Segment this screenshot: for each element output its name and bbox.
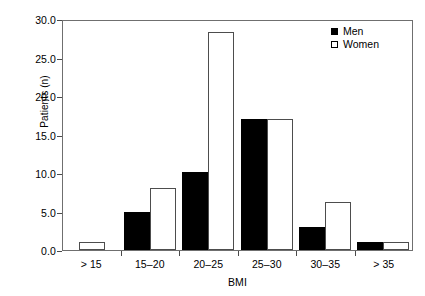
bar-group <box>238 21 296 250</box>
bar-pair <box>238 21 296 250</box>
x-tick-label: 30–35 <box>296 258 355 270</box>
legend-item: Men <box>331 25 379 38</box>
bar-men <box>182 172 208 250</box>
legend-swatch-icon <box>331 41 338 48</box>
y-tick-label: 10.0 <box>4 168 56 180</box>
bar-group <box>121 21 179 250</box>
x-tick-label: 20–25 <box>179 258 238 270</box>
bar-women <box>79 242 105 250</box>
legend-label: Men <box>343 25 363 38</box>
x-axis-labels: > 1515–2020–2525–3030–35> 35 <box>62 258 413 270</box>
legend-swatch-icon <box>331 28 338 35</box>
y-tick-label: 30.0 <box>4 14 56 26</box>
bar-group <box>296 21 354 250</box>
bar-women <box>383 242 409 250</box>
bar-women <box>208 32 234 250</box>
legend-label: Women <box>343 38 379 51</box>
bar-men <box>241 119 267 250</box>
x-tick-label: > 15 <box>62 258 121 270</box>
bar-women <box>267 119 293 250</box>
bar-men <box>357 242 383 250</box>
bar-women <box>325 202 351 251</box>
y-tick-label: 25.0 <box>4 53 56 65</box>
x-axis-ticks <box>62 251 413 257</box>
y-tick-label: 15.0 <box>4 130 56 142</box>
y-tick-label: 5.0 <box>4 207 56 219</box>
plot-area <box>63 21 412 250</box>
bar-pair <box>354 21 412 250</box>
x-tick-mark <box>296 251 297 256</box>
bar-women <box>150 188 176 250</box>
x-tick-label: 15–20 <box>121 258 180 270</box>
y-tick-label: 20.0 <box>4 91 56 103</box>
x-tick-mark <box>179 251 180 256</box>
bar-pair <box>296 21 354 250</box>
y-tick-label: 0.0 <box>4 245 56 257</box>
x-tick-mark <box>238 251 239 256</box>
x-axis-title: BMI <box>62 276 413 288</box>
x-tick-label: 25–30 <box>238 258 297 270</box>
bar-pair <box>121 21 179 250</box>
x-tick-mark <box>121 251 122 256</box>
legend: MenWomen <box>331 25 379 51</box>
bar-group <box>354 21 412 250</box>
bar-pair <box>63 21 121 250</box>
bar-group <box>63 21 121 250</box>
bar-pair <box>179 21 237 250</box>
bar-group <box>179 21 237 250</box>
x-tick-label: > 35 <box>355 258 414 270</box>
bar-men <box>299 227 325 250</box>
y-axis-ticks: 0.05.010.015.020.025.030.0 <box>0 0 56 296</box>
legend-item: Women <box>331 38 379 51</box>
bar-men <box>124 212 150 251</box>
plot-frame <box>62 20 413 251</box>
bmi-patients-bar-chart: Patients (n) 0.05.010.015.020.025.030.0 … <box>0 0 425 296</box>
x-tick-mark <box>355 251 356 256</box>
